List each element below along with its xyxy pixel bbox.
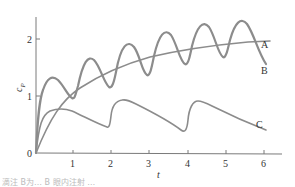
- curve-c: [36, 100, 266, 153]
- x-axis: [36, 153, 282, 154]
- y-tick-label-1: 1: [27, 91, 32, 102]
- pharmacokinetic-chart: 0 1 2 1 2 3 4 5 6 cP t A B C: [0, 0, 295, 187]
- x-tick-label-3: 3: [146, 158, 151, 169]
- x-tick-label-2: 2: [108, 158, 113, 169]
- x-tick-label-5: 5: [223, 158, 228, 169]
- series-label-a: A: [261, 39, 269, 50]
- y-tick-label-0: 0: [27, 148, 32, 159]
- x-tick-label-1: 1: [70, 158, 75, 169]
- y-tick-label-2: 2: [27, 34, 32, 45]
- x-tick-label-4: 4: [185, 158, 190, 169]
- curve-b: [36, 21, 266, 153]
- x-tick-label-6: 6: [261, 158, 266, 169]
- figure-caption: 滴注 B为… B 眼内注射 …: [2, 178, 295, 187]
- y-axis-title: cP: [13, 83, 27, 92]
- series-label-b: B: [261, 65, 268, 76]
- series-label-c: C: [256, 119, 263, 130]
